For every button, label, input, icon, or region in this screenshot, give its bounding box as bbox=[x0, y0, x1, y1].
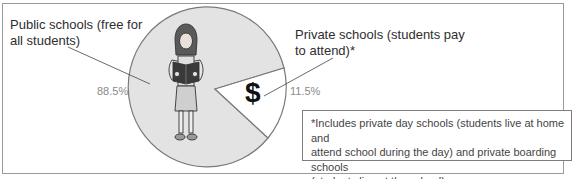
label-public-line2: all students) bbox=[10, 33, 142, 49]
label-public-line1: Public schools (free for bbox=[10, 17, 142, 33]
value-label-private: 11.5% bbox=[290, 85, 320, 97]
label-public: Public schools (free for all students) bbox=[10, 17, 142, 49]
footnote-line3: (students live at the school) bbox=[311, 174, 571, 179]
footnote-line2: attend school during the day) and privat… bbox=[311, 145, 571, 174]
label-private-line2: to attend)* bbox=[295, 43, 465, 59]
dollar-sign-icon: $ bbox=[245, 78, 261, 108]
footnote-line1: *Includes private day schools (students … bbox=[311, 116, 571, 145]
label-private-line1: Private schools (students pay bbox=[295, 27, 465, 43]
value-label-public: 88.5% bbox=[97, 85, 128, 97]
footnote-box: *Includes private day schools (students … bbox=[302, 110, 572, 161]
label-private: Private schools (students pay to attend)… bbox=[295, 27, 465, 59]
